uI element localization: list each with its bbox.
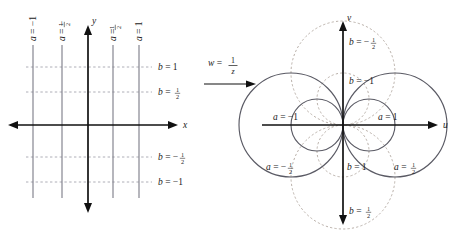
u-axis-label: u (443, 120, 448, 130)
svg-text:a = −1: a = −1 (28, 16, 38, 41)
svg-text:b = −: b = − (349, 37, 369, 47)
svg-text:2: 2 (181, 158, 184, 165)
y-axis-label: y (91, 16, 97, 26)
svg-text:a =: a = (108, 29, 118, 41)
svg-text:a = −: a = − (266, 162, 286, 172)
svg-text:2: 2 (176, 93, 179, 100)
svg-text:2: 2 (289, 168, 292, 175)
svg-text:b = −1: b = −1 (349, 76, 374, 86)
label-b-1: b = 1 (158, 62, 178, 72)
svg-text:b = 1: b = 1 (158, 62, 178, 72)
svg-text:2: 2 (412, 168, 415, 175)
svg-text:b = −1: b = −1 (158, 177, 183, 187)
svg-text:2: 2 (115, 26, 122, 29)
label-right-a-1: a = 1 (378, 112, 398, 122)
mobius-transform-figure: x y a = −1 a = − 1 2 (0, 0, 456, 231)
svg-text:b = 1: b = 1 (347, 162, 367, 172)
svg-text:b =: b = (349, 206, 361, 216)
svg-text:2: 2 (367, 212, 370, 219)
svg-text:b =: b = (158, 87, 170, 97)
label-b-neg-1: b = −1 (158, 177, 183, 187)
label-right-b-1: b = 1 (347, 162, 367, 172)
svg-text:b = −: b = − (158, 152, 178, 162)
label-right-a-neg-1: a = −1 (273, 112, 298, 122)
svg-text:2: 2 (64, 23, 71, 26)
transform-w-symbol: w = (208, 58, 222, 68)
svg-text:a = −1: a = −1 (273, 112, 298, 122)
svg-text:a = 1: a = 1 (378, 112, 398, 122)
svg-text:2: 2 (372, 43, 375, 50)
transform-numerator: 1 (231, 56, 235, 65)
label-a-1: a = 1 (134, 21, 144, 41)
x-axis-label: x (182, 120, 188, 130)
label-right-b-neg-1: b = −1 (349, 76, 374, 86)
svg-text:a = 1: a = 1 (134, 21, 144, 41)
label-a-neg-1: a = −1 (28, 16, 38, 41)
svg-text:a =: a = (394, 162, 406, 172)
